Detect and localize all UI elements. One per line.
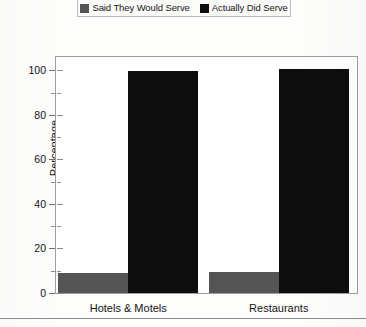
y-tick-label: 0 [10, 288, 46, 299]
page-horizontal-rule [0, 318, 366, 319]
y-tick-inner [57, 70, 63, 71]
y-tick-inner [57, 182, 61, 183]
bar-actually-did-serve [279, 69, 349, 293]
y-tick-inner [57, 271, 61, 272]
plot-area [55, 56, 358, 294]
legend-entry-actually-did-serve: Actually Did Serve [200, 3, 288, 13]
legend-label-actually-did-serve: Actually Did Serve [212, 3, 288, 13]
bar-actually-did-serve [128, 71, 198, 293]
y-tick-inner [57, 226, 61, 227]
plot-inner [56, 57, 357, 293]
y-tick-inner [57, 204, 63, 205]
legend-label-said-they-would-serve: Said They Would Serve [92, 3, 189, 13]
y-tick-label: 40 [10, 199, 46, 210]
legend-swatch-gray-icon [80, 4, 89, 13]
y-tick-inner [57, 159, 63, 160]
y-tick-label: 100 [10, 65, 46, 76]
y-tick-label: 80 [10, 110, 46, 121]
y-tick-inner [57, 93, 61, 94]
legend-entry-said-they-would-serve: Said They Would Serve [80, 3, 189, 13]
bar-said-they-would-serve [209, 272, 279, 293]
y-tick-inner [57, 137, 61, 138]
y-tick-label: 20 [10, 243, 46, 254]
y-tick-inner [57, 248, 63, 249]
y-tick-label: 60 [10, 154, 46, 165]
y-tick-inner [57, 115, 63, 116]
bar-said-they-would-serve [58, 273, 128, 293]
chart-legend: Said They Would Serve Actually Did Serve [77, 0, 291, 17]
y-tick-inner [57, 293, 63, 294]
x-tick-label-restaurants: Restaurants [189, 302, 366, 314]
legend-swatch-black-icon [200, 4, 209, 13]
